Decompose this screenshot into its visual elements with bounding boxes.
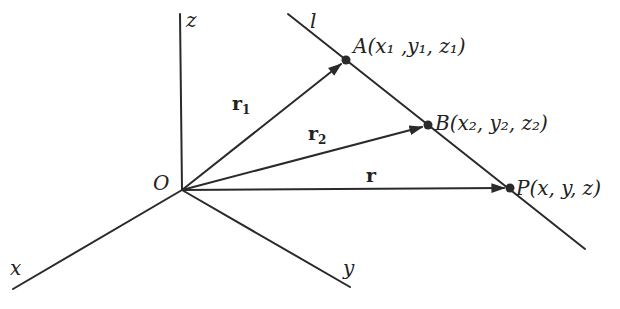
point-P-coords: (x, y, z): [529, 176, 601, 200]
point-B-coords: (x₂, y₂, z₂): [450, 111, 548, 135]
x-axis: [13, 190, 182, 289]
label-point-A: A(x₁ ,y₁, z₁): [351, 34, 466, 58]
label-line-l: l: [310, 9, 316, 33]
vector-r2: [182, 127, 422, 190]
label-x: x: [10, 256, 21, 280]
point-A-name: A: [351, 34, 367, 58]
point-A-dot: [342, 56, 351, 65]
label-y: y: [342, 256, 355, 280]
point-P-dot: [506, 184, 515, 193]
label-vector-r1: r1: [232, 92, 250, 117]
vector-r2-subscript: 2: [318, 133, 326, 147]
z-axis: [180, 14, 182, 190]
label-point-B: B(x₂, y₂, z₂): [434, 111, 548, 135]
point-B-name: B: [434, 111, 450, 135]
label-z: z: [185, 8, 197, 32]
diagram-canvas: z x y O l A(x₁ ,y₁, z₁) B(x₂, y₂, z₂) P(…: [0, 0, 620, 309]
vector-r: [182, 188, 504, 190]
point-B-dot: [424, 121, 433, 130]
vector-r1-subscript: 1: [242, 103, 250, 117]
label-point-P: P(x, y, z): [515, 176, 601, 200]
point-P-name: P: [515, 176, 530, 200]
y-axis: [182, 190, 350, 287]
point-A-coords: (x₁ ,y₁, z₁): [367, 34, 465, 58]
label-vector-r: r: [366, 164, 377, 186]
label-vector-r2: r2: [308, 122, 326, 147]
label-origin-O: O: [153, 171, 169, 195]
vector-line-diagram: z x y O l A(x₁ ,y₁, z₁) B(x₂, y₂, z₂) P(…: [0, 0, 620, 309]
